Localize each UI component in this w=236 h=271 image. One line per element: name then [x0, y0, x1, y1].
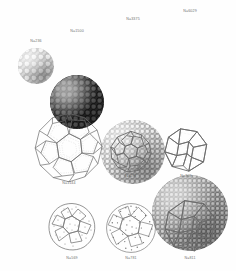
rough-sphere-drawing	[47, 202, 97, 252]
rough-sphere-dense-drawing	[105, 202, 157, 254]
particle-stipple	[170, 205, 211, 248]
truncated-polyhedron-small-drawing	[109, 130, 153, 174]
cluster-dotted-2	[105, 202, 157, 254]
icosahedron-drawing	[163, 127, 209, 173]
cluster-label-10: N=811	[184, 256, 195, 260]
cluster-wireframe-mid	[109, 130, 153, 174]
cluster-wireframe-icosahedron	[163, 127, 209, 173]
cluster-label-1: N=236	[30, 39, 41, 43]
cluster-label-2: N=1500	[70, 29, 84, 33]
sphere-grain-texture	[18, 48, 54, 84]
cluster-dotted-1	[47, 202, 97, 252]
cluster-wireframe-large	[33, 112, 105, 184]
cluster-label-6: N=297	[125, 174, 136, 178]
cluster-sphere-1	[18, 48, 54, 84]
faceted-icosahedron-drawing	[163, 199, 217, 253]
truncated-polyhedron-large-drawing	[33, 112, 105, 184]
cluster-label-8: N=569	[66, 256, 77, 260]
cluster-dotted-3	[163, 199, 217, 253]
cluster-label-4: N=6029	[183, 9, 197, 13]
cluster-label-9: N=781	[125, 256, 136, 260]
cluster-label-3: N=3375	[126, 17, 140, 21]
cluster-structure-figure: N=236 N=1500 N=3375 N=6029	[0, 0, 236, 271]
cluster-label-5: N=1144	[62, 181, 75, 185]
cluster-label-7: N=309	[180, 174, 191, 178]
